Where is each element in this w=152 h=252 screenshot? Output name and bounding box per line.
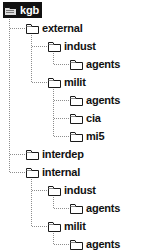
tree-node-int-ind-agents[interactable]: agents xyxy=(0,200,152,216)
folder-icon xyxy=(26,23,39,34)
folder-icon xyxy=(70,113,83,124)
folder-icon xyxy=(48,185,61,196)
tree-node-int-indust[interactable]: indust xyxy=(0,182,152,198)
tree-node-content[interactable]: mi5 xyxy=(70,128,104,144)
tree-node-content[interactable]: agents xyxy=(70,92,120,108)
tree-node-content[interactable]: agents xyxy=(70,236,120,252)
tree-node-label: indust xyxy=(63,38,96,54)
tree-node-content[interactable]: kgb xyxy=(3,2,42,18)
tree-node-label: internal xyxy=(41,164,80,180)
tree-node-label: interdep xyxy=(41,146,84,162)
tree-node-content[interactable]: indust xyxy=(48,182,96,198)
tree-node-content[interactable]: agents xyxy=(70,56,120,72)
tree-node-ext-mil-cia[interactable]: cia xyxy=(0,110,152,126)
tree-node-external[interactable]: external xyxy=(0,20,152,36)
tree-node-content[interactable]: milit xyxy=(48,218,86,234)
tree-node-internal[interactable]: internal xyxy=(0,164,152,180)
folder-icon xyxy=(70,95,83,106)
folder-icon xyxy=(70,59,83,70)
folder-icon xyxy=(70,239,83,250)
tree-node-label: agents xyxy=(85,56,120,72)
tree-node-label: mi5 xyxy=(85,128,104,144)
tree-node-ext-mil-mi5[interactable]: mi5 xyxy=(0,128,152,144)
tree-node-label: agents xyxy=(85,236,120,252)
tree-node-content[interactable]: interdep xyxy=(26,146,84,162)
folder-open-icon xyxy=(4,5,17,16)
tree-node-interdep[interactable]: interdep xyxy=(0,146,152,162)
tree-node-label: indust xyxy=(63,182,96,198)
folder-icon xyxy=(48,41,61,52)
folder-icon xyxy=(70,131,83,142)
tree-node-label: milit xyxy=(63,74,86,90)
tree-node-content[interactable]: external xyxy=(26,20,83,36)
tree-node-label: agents xyxy=(85,200,120,216)
tree-node-content[interactable]: indust xyxy=(48,38,96,54)
tree-node-label: cia xyxy=(85,110,101,126)
folder-icon xyxy=(48,77,61,88)
tree-node-ext-indust[interactable]: indust xyxy=(0,38,152,54)
folder-icon xyxy=(48,221,61,232)
tree-node-label: agents xyxy=(85,92,120,108)
tree-node-int-mil-agents[interactable]: agents xyxy=(0,236,152,252)
folder-icon xyxy=(70,203,83,214)
tree-node-label: kgb xyxy=(19,2,39,18)
tree-node-ext-milit[interactable]: milit xyxy=(0,74,152,90)
tree-node-content[interactable]: internal xyxy=(26,164,80,180)
tree-node-label: milit xyxy=(63,218,86,234)
tree-node-ext-ind-agents[interactable]: agents xyxy=(0,56,152,72)
tree-node-content[interactable]: cia xyxy=(70,110,101,126)
tree-node-ext-mil-agents[interactable]: agents xyxy=(0,92,152,108)
folder-icon xyxy=(26,149,39,160)
folder-icon xyxy=(26,167,39,178)
tree-node-content[interactable]: milit xyxy=(48,74,86,90)
tree-node-label: external xyxy=(41,20,83,36)
tree-node-kgb[interactable]: kgb xyxy=(0,2,152,18)
tree-node-int-milit[interactable]: milit xyxy=(0,218,152,234)
tree-node-content[interactable]: agents xyxy=(70,200,120,216)
